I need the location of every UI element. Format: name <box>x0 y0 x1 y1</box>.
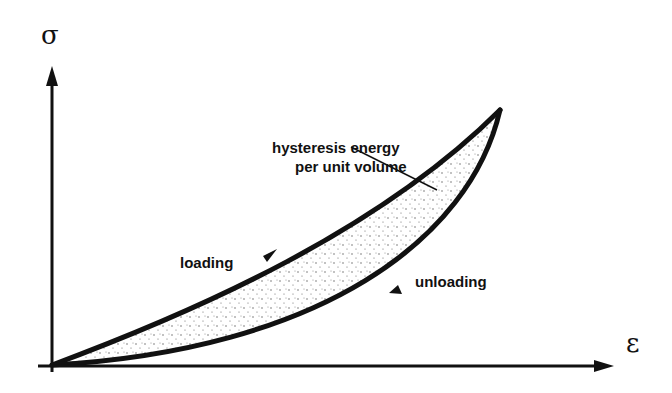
y-axis-arrow-icon <box>46 66 58 86</box>
loading-label: loading <box>180 254 233 272</box>
y-axis-label: σ <box>41 22 59 48</box>
unloading-direction-arrow-icon <box>389 285 402 294</box>
hysteresis-diagram: σ ε hysteresis energy per unit volume lo… <box>0 0 672 393</box>
diagram-graphics <box>0 0 672 393</box>
unloading-label: unloading <box>415 273 487 291</box>
x-axis-label: ε <box>626 330 639 356</box>
loading-direction-arrow-icon <box>263 249 277 262</box>
x-axis-arrow-icon <box>594 360 614 372</box>
annotation-line-2: per unit volume <box>295 158 407 176</box>
annotation-line-1: hysteresis energy <box>272 139 400 157</box>
